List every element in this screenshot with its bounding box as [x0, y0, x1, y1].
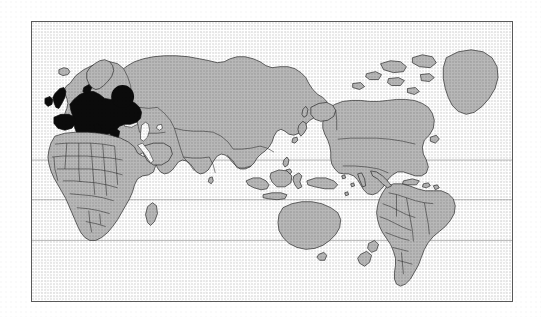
iceland — [59, 68, 70, 76]
world-map-svg — [32, 22, 512, 301]
screenshot-root: World map with highlighted region Europe… — [0, 0, 541, 317]
map-frame-border — [31, 21, 513, 302]
location-marker-dot[interactable] — [111, 85, 134, 108]
map-canvas[interactable] — [32, 22, 512, 301]
java — [263, 193, 287, 200]
map-sheet — [0, 0, 541, 317]
iberia-highlight — [54, 114, 76, 130]
